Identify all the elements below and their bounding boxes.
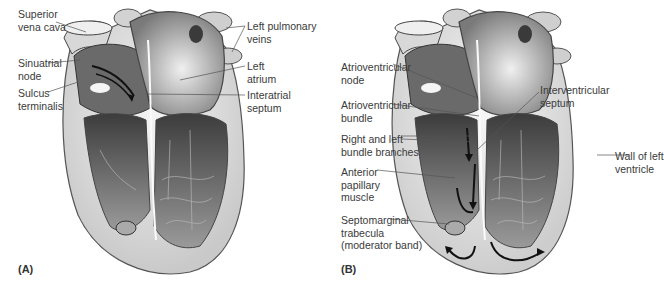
label-sinuatrial-node: Sinuatrial node <box>18 57 62 82</box>
label-bundle-branches: Right and left bundle branches <box>341 133 419 158</box>
panel-letter-a: (A) <box>18 263 33 275</box>
label-interatrial-septum: Interatrial septum <box>247 89 291 114</box>
label-interventricular-septum: Interventricular septum <box>540 84 609 109</box>
panel-letter-b: (B) <box>341 263 356 275</box>
label-atrioventricular-node: Atrioventricular node <box>341 61 411 86</box>
label-left-atrium: Left atrium <box>247 60 276 85</box>
label-sulcus-terminalis: Sulcus terminalis <box>18 87 63 112</box>
panel-a: Superior vena cava Sinuatrial node Sulcu… <box>0 0 326 290</box>
label-anterior-papillary-muscle: Anterior papillary muscle <box>341 166 380 204</box>
panel-b: Atrioventricular node Atrioventricular b… <box>327 0 653 290</box>
label-atrioventricular-bundle: Atrioventricular bundle <box>341 99 411 124</box>
label-wall-of-left-ventricle: Wall of left ventricle <box>615 150 664 175</box>
label-superior-vena-cava: Superior vena cava <box>18 8 66 33</box>
label-septomarginal-trabecula: Septomarginal trabecula (moderator band) <box>341 214 422 252</box>
label-left-pulmonary-veins: Left pulmonary veins <box>247 20 316 45</box>
